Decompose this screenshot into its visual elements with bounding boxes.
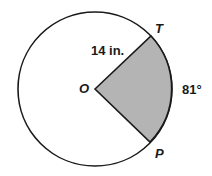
point-p-label: P	[155, 146, 164, 161]
central-angle-label: 81°	[182, 82, 202, 97]
center-point-label: O	[79, 81, 89, 96]
circle-sector-diagram: 14 in. O T P 81°	[0, 0, 212, 176]
radius-label: 14 in.	[91, 43, 124, 58]
point-t-label: T	[155, 21, 164, 36]
